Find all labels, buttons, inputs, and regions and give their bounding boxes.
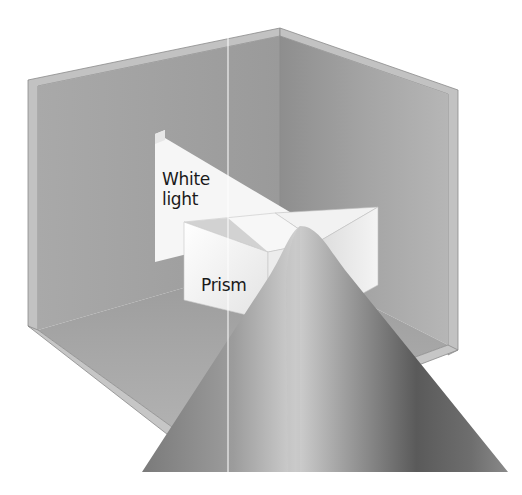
diagram-canvas xyxy=(0,0,522,495)
prism-label: Prism xyxy=(201,275,247,295)
prism-diagram: White light Prism xyxy=(0,0,522,495)
white-light-label-line2: light xyxy=(162,189,222,209)
white-light-label: White light xyxy=(162,169,222,209)
white-light-label-line1: White xyxy=(162,169,222,189)
